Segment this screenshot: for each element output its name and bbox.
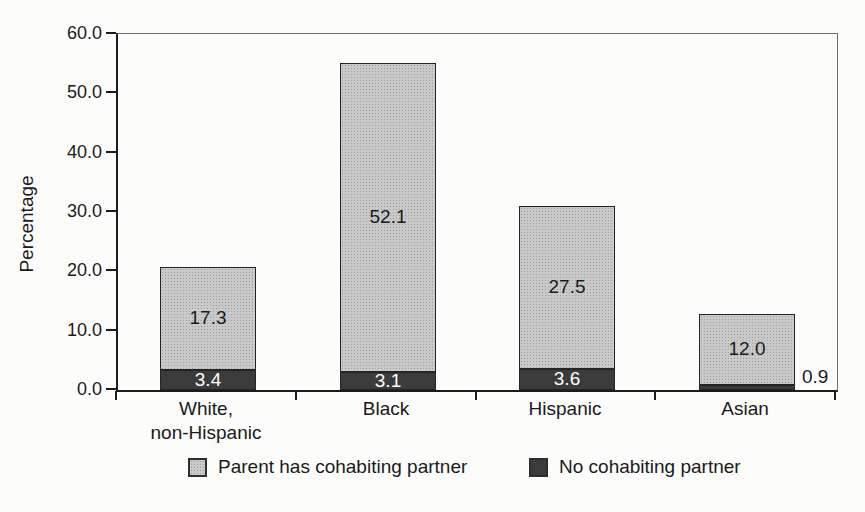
category-label: Black — [295, 397, 477, 421]
stacked-bar: 27.53.6 — [519, 206, 615, 390]
bar-value-label: 3.4 — [160, 370, 256, 390]
y-tick — [106, 210, 116, 212]
y-tick — [106, 269, 116, 271]
category-label: Asian — [654, 397, 836, 421]
stacked-bar: 52.13.1 — [340, 63, 436, 390]
y-tick-label: 0.0 — [34, 379, 102, 399]
legend-swatch-light-icon — [188, 458, 207, 477]
stacked-bar: 17.33.4 — [160, 267, 256, 390]
y-tick-label: 10.0 — [34, 320, 102, 340]
category-label: Hispanic — [474, 397, 656, 421]
y-tick — [106, 151, 116, 153]
legend-item-no-cohabiting: No cohabiting partner — [529, 456, 741, 478]
bar-value-label-outside: 0.9 — [802, 365, 828, 389]
bar-value-label: 3.6 — [519, 369, 615, 389]
bar-value-label: 27.5 — [519, 277, 615, 297]
bar-value-label: 17.3 — [160, 308, 256, 328]
plot-area: 17.33.452.13.127.53.612.00.9 — [116, 33, 838, 392]
category-label: White, non-Hispanic — [115, 397, 297, 445]
y-tick — [106, 388, 116, 390]
legend-label: Parent has cohabiting partner — [218, 456, 467, 478]
bar-segment-dark — [699, 385, 795, 390]
y-tick-label: 30.0 — [34, 201, 102, 221]
stacked-bar: 12.0 — [699, 314, 795, 390]
y-tick-label: 20.0 — [34, 260, 102, 280]
y-tick — [106, 329, 116, 331]
y-tick-label: 50.0 — [34, 82, 102, 102]
y-tick — [106, 91, 116, 93]
stacked-bar-chart-figure: Percentage 17.33.452.13.127.53.612.00.9 … — [0, 0, 865, 512]
bar-value-label: 52.1 — [340, 207, 436, 227]
legend-swatch-dark-icon — [529, 458, 548, 477]
y-tick-label: 40.0 — [34, 142, 102, 162]
y-tick — [106, 32, 116, 34]
y-tick-label: 60.0 — [34, 23, 102, 43]
legend-label: No cohabiting partner — [559, 456, 741, 478]
bar-value-label: 12.0 — [699, 339, 795, 359]
legend-item-cohabiting: Parent has cohabiting partner — [188, 456, 467, 478]
bar-value-label: 3.1 — [340, 371, 436, 391]
